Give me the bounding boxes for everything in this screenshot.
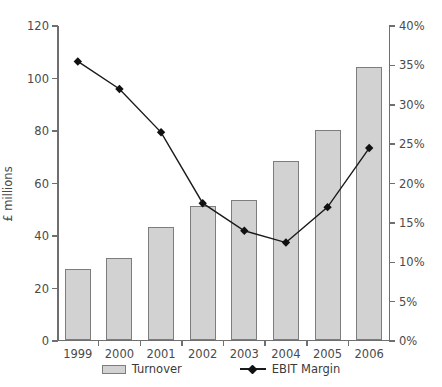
- chart-title: [0, 0, 442, 2]
- x-axis-tick-label: 1999: [63, 347, 92, 361]
- x-axis-tick-label: 2006: [355, 347, 384, 361]
- x-axis-tick-label: 2000: [105, 347, 134, 361]
- legend-item-turnover: Turnover: [102, 362, 182, 376]
- y-right-tick-label: 25%: [399, 137, 425, 151]
- y-right-tick-label: 30%: [399, 98, 425, 112]
- legend-bar-swatch-icon: [102, 365, 126, 374]
- y-axis-left-title: £ millions: [1, 166, 15, 221]
- legend-diamond-marker-icon: [247, 364, 257, 374]
- legend-item-ebit-margin: EBIT Margin: [240, 362, 341, 376]
- y-right-tick-label: 10%: [399, 255, 425, 269]
- y-left-tick-label: 80: [34, 124, 49, 138]
- y-left-tick-label: 40: [34, 229, 49, 243]
- y-left-tick-label: 20: [34, 282, 49, 296]
- line-series-ebit-margin: [57, 26, 390, 341]
- x-axis-tick-label: 2004: [271, 347, 300, 361]
- x-axis-tick-label: 2003: [230, 347, 259, 361]
- legend-label-ebit-margin: EBIT Margin: [272, 362, 341, 376]
- ebit-margin-data-point: [74, 57, 82, 65]
- y-left-tick-label: 120: [27, 19, 49, 33]
- legend-label-turnover: Turnover: [132, 362, 182, 376]
- y-right-tick-label: 0%: [399, 334, 417, 348]
- x-axis-tick-label: 2005: [313, 347, 342, 361]
- x-axis-tick-label: 2002: [188, 347, 217, 361]
- ebit-margin-data-point: [365, 144, 373, 152]
- y-left-tick-label: 0: [42, 334, 49, 348]
- ebit-margin-data-point: [240, 227, 248, 235]
- y-right-tick-label: 40%: [399, 19, 425, 33]
- chart-container: 020406080100120 0%5%10%15%20%25%30%35%40…: [0, 0, 442, 387]
- y-left-tick-label: 60: [34, 177, 49, 191]
- chart-legend: Turnover EBIT Margin: [0, 362, 442, 376]
- ebit-margin-data-point: [198, 199, 206, 207]
- y-left-tick-label: 100: [27, 72, 49, 86]
- plot-area: 020406080100120 0%5%10%15%20%25%30%35%40…: [57, 26, 390, 341]
- legend-line-swatch-icon: [240, 364, 266, 374]
- y-right-tick-label: 15%: [399, 216, 425, 230]
- y-right-tick-label: 20%: [399, 177, 425, 191]
- y-right-tick-label: 35%: [399, 58, 425, 72]
- x-axis-tick-label: 2001: [146, 347, 175, 361]
- y-right-tick-label: 5%: [399, 295, 417, 309]
